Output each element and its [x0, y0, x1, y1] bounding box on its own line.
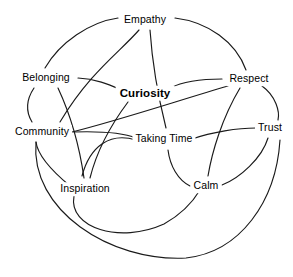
edge-belonging-to-community: [28, 88, 34, 122]
edge-taking_time-to-calm: [168, 150, 190, 186]
edge-community-to-trust: [36, 140, 280, 258]
node-label-curiosity[interactable]: Curiosity: [116, 86, 175, 101]
node-label-trust[interactable]: Trust: [255, 121, 285, 135]
edge-empathy-to-respect: [175, 18, 246, 70]
network-diagram: EmpathyBelongingCuriosityRespectCommunit…: [0, 0, 293, 277]
edge-trust-to-calm: [222, 138, 268, 185]
node-label-belonging[interactable]: Belonging: [19, 71, 73, 85]
node-label-community[interactable]: Community: [12, 125, 72, 139]
edge-respect-to-trust: [262, 86, 278, 120]
edge-respect-to-calm: [208, 88, 240, 176]
edge-taking_time-to-trust: [192, 128, 256, 139]
node-label-taking_time[interactable]: Taking Time: [132, 132, 195, 146]
node-label-empathy[interactable]: Empathy: [121, 13, 169, 27]
edge-taking_time-to-inspiration: [82, 138, 136, 176]
edge-empathy-to-taking_time: [150, 30, 166, 128]
node-label-calm[interactable]: Calm: [191, 179, 222, 193]
edge-community-to-taking_time: [74, 132, 136, 138]
edge-empathy-to-belonging: [45, 18, 118, 68]
node-label-respect[interactable]: Respect: [226, 72, 271, 86]
node-label-inspiration[interactable]: Inspiration: [57, 182, 113, 196]
edge-respect-to-curiosity: [170, 79, 222, 88]
edge-inspiration-to-calm: [74, 190, 200, 233]
